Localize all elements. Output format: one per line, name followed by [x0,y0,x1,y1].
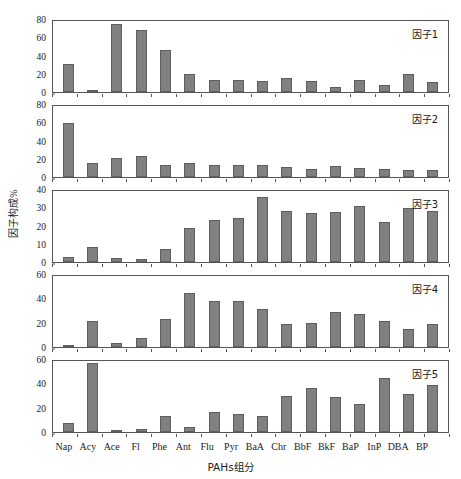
bar[interactable] [403,329,414,347]
y-tick-label: 0 [41,174,46,184]
bar[interactable] [257,309,268,347]
panel-1: 020406080因子1 [22,14,454,93]
bar[interactable] [63,345,74,347]
bar[interactable] [136,338,147,347]
bar-slot [178,276,202,347]
bar[interactable] [281,167,292,177]
x-tick-mark [325,434,326,437]
bar[interactable] [87,321,98,347]
x-tick-mark [449,94,450,97]
bar[interactable] [111,258,122,262]
bar[interactable] [136,259,147,262]
x-tick-mark [300,94,301,97]
bar[interactable] [379,321,390,347]
bar[interactable] [427,324,438,347]
bar[interactable] [330,212,341,262]
x-tick-label-bkf: BkF [315,441,339,452]
x-tick-marks [52,348,449,352]
bar-slot [372,106,396,177]
bar[interactable] [427,170,438,177]
bar[interactable] [160,319,171,347]
bar[interactable] [281,211,292,262]
bar[interactable] [427,385,438,432]
bar-slot [105,276,129,347]
bar[interactable] [111,343,122,347]
bar[interactable] [403,74,414,92]
bar[interactable] [257,81,268,92]
x-tick-mark [126,94,127,97]
bar[interactable] [306,81,317,92]
bar[interactable] [209,165,220,177]
bar[interactable] [306,323,317,347]
bar[interactable] [427,211,438,262]
bar[interactable] [403,394,414,432]
bar[interactable] [427,82,438,92]
y-tick-label: 80 [37,16,47,26]
bar[interactable] [354,80,365,92]
bar[interactable] [379,222,390,262]
bar[interactable] [330,87,341,92]
bar[interactable] [330,166,341,177]
bar[interactable] [87,247,98,262]
bar[interactable] [233,414,244,432]
bar[interactable] [87,363,98,432]
x-tick-mark [201,179,202,182]
bar[interactable] [306,169,317,177]
bar[interactable] [184,228,195,262]
bar[interactable] [209,220,220,262]
bar[interactable] [63,257,74,262]
bar[interactable] [233,218,244,262]
bar[interactable] [160,50,171,92]
bar[interactable] [63,423,74,432]
bar-slot [178,191,202,262]
bar[interactable] [257,197,268,262]
bar[interactable] [403,170,414,177]
bar[interactable] [209,412,220,432]
bar[interactable] [184,163,195,177]
bar[interactable] [209,80,220,92]
y-tick-label: 60 [37,271,47,281]
bar[interactable] [403,208,414,262]
bar[interactable] [184,427,195,432]
bar[interactable] [233,80,244,92]
bar[interactable] [354,168,365,177]
bar[interactable] [354,206,365,262]
bar[interactable] [63,123,74,177]
bar[interactable] [87,90,98,92]
x-tick-mark [375,179,376,182]
bar[interactable] [136,156,147,177]
bar[interactable] [379,169,390,177]
bar[interactable] [160,416,171,432]
bar[interactable] [160,165,171,177]
x-tick-mark [275,94,276,97]
bar[interactable] [184,293,195,348]
bar[interactable] [306,388,317,432]
bar[interactable] [111,24,122,92]
bar[interactable] [111,430,122,432]
bar[interactable] [354,404,365,432]
bar[interactable] [209,301,220,347]
bar-slot [323,276,347,347]
bar[interactable] [257,416,268,432]
bar[interactable] [354,314,365,347]
bar[interactable] [281,324,292,347]
bar[interactable] [281,396,292,432]
bar[interactable] [87,163,98,177]
bar[interactable] [379,85,390,92]
bar[interactable] [306,213,317,262]
bar[interactable] [233,165,244,177]
bar[interactable] [136,429,147,432]
bar[interactable] [257,165,268,177]
bar[interactable] [233,301,244,347]
bar[interactable] [330,397,341,432]
bar[interactable] [330,312,341,347]
bar[interactable] [184,74,195,92]
bar[interactable] [111,158,122,177]
x-tick-mark [449,434,450,437]
bar[interactable] [160,249,171,262]
bar[interactable] [63,64,74,92]
bar[interactable] [136,30,147,92]
bar[interactable] [281,78,292,92]
bar[interactable] [379,378,390,432]
y-tick-label: 40 [37,381,47,391]
